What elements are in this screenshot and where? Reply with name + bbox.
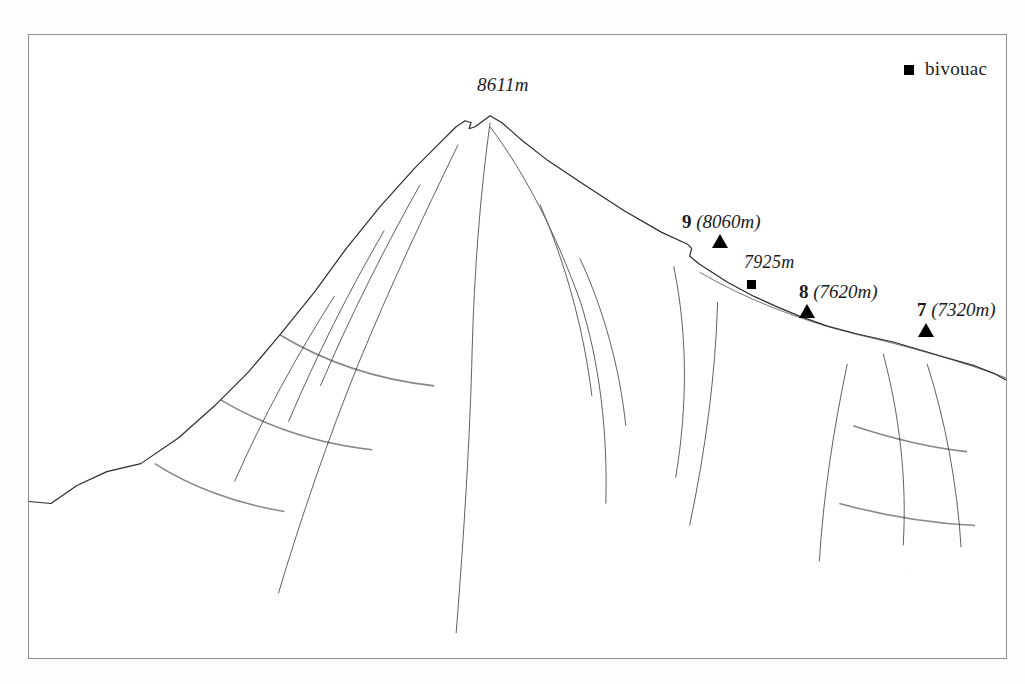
- camp-9-label: 9 (8060m): [682, 211, 761, 233]
- camp-8-label: 8 (7620m): [799, 281, 878, 303]
- camp-9-triangle-marker: [712, 234, 728, 248]
- camp-7-altitude: (7320m): [931, 299, 995, 320]
- mountain-illustration: [29, 35, 1006, 658]
- summit-elevation-label: 8611m: [477, 74, 529, 96]
- camp-8-triangle-marker: [799, 304, 815, 318]
- camp-7-label: 7 (7320m): [917, 299, 996, 321]
- bivouac-elevation-label: 7925m: [744, 252, 795, 273]
- camp-9-altitude: (8060m): [696, 211, 760, 232]
- bivouac-square-marker: [747, 280, 756, 289]
- legend-bivouac-label: bivouac: [925, 58, 987, 80]
- camp-7-number: 7: [917, 299, 927, 320]
- camp-7-triangle-marker: [918, 323, 934, 337]
- camp-9-number: 9: [682, 211, 692, 232]
- camp-8-altitude: (7620m): [813, 281, 877, 302]
- illustration-plate: [28, 34, 1007, 659]
- figure-root: 8611m 9 (8060m) 7925m 8 (7620m) 7 (7320m…: [0, 0, 1025, 684]
- camp-8-number: 8: [799, 281, 809, 302]
- legend-square-marker: [904, 65, 914, 75]
